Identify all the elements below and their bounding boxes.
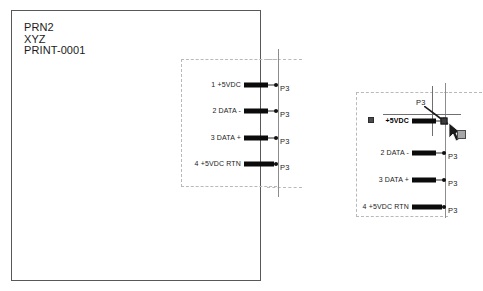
- title-line-1: PRN2: [24, 22, 86, 34]
- part-outline-stub-top: [267, 59, 302, 60]
- pin-label-selected: +5VDC: [385, 117, 409, 125]
- pin-label: 3 DATA +: [379, 176, 409, 184]
- pin-terminal-dot-icon[interactable]: [274, 136, 278, 140]
- pin-label: 2 DATA -: [380, 149, 409, 157]
- pin-label: 3 DATA +: [211, 134, 241, 142]
- pin-bar-icon: [244, 109, 268, 114]
- pin-bar-icon: [412, 178, 436, 183]
- title-block: PRN2 XYZ PRINT-0001: [24, 22, 86, 57]
- title-line-3: PRINT-0001: [24, 45, 86, 57]
- connector-label-active: P3: [415, 98, 427, 107]
- connector-label: P3: [448, 207, 458, 215]
- connector-label: P3: [280, 111, 290, 119]
- pin-bar-icon: [244, 136, 268, 141]
- connector-label: P3: [280, 164, 290, 172]
- pin-terminal-dot-icon[interactable]: [442, 205, 446, 209]
- connector-label: P3: [280, 138, 290, 146]
- pin-terminal-dot-icon[interactable]: [442, 178, 446, 182]
- pin-label: 4 +5VDC RTN: [363, 203, 409, 211]
- pin-terminal-dot-icon[interactable]: [274, 162, 278, 166]
- pin-label: 1 +5VDC: [211, 81, 241, 89]
- pin-bar-icon: [244, 162, 274, 167]
- pin-bar-icon: [244, 83, 268, 88]
- part-outline-stub-bottom: [267, 187, 302, 188]
- connector-label: P3: [448, 180, 458, 188]
- pin-terminal-dot-icon[interactable]: [274, 109, 278, 113]
- crosshair-vertical: [432, 86, 433, 136]
- pin-terminal-dot-icon[interactable]: [442, 151, 446, 155]
- pin-bar-icon: [412, 151, 436, 156]
- schematic-sheet[interactable]: PRN2 XYZ PRINT-0001 1 +5VDC P3 2 DATA - …: [11, 10, 261, 281]
- pin-label: 2 DATA -: [212, 107, 241, 115]
- pin-label: 4 +5VDC RTN: [195, 160, 241, 168]
- crosshair-horizontal: [383, 114, 461, 115]
- pin-bar-icon: [412, 205, 442, 210]
- pin-terminal-dot-icon[interactable]: [274, 83, 278, 87]
- connector-bus-line: [278, 49, 279, 197]
- selected-endpoint-handle[interactable]: [441, 118, 448, 125]
- detail-part-outline-stub-top: [444, 92, 482, 93]
- connector-label: P3: [280, 85, 290, 93]
- detail-zoom-panel[interactable]: P3 +5VDC 2 DATA - P3 3 DATA + P3: [352, 88, 482, 218]
- pin-bar-icon: [412, 119, 436, 124]
- drag-ghost-icon: [457, 130, 466, 139]
- drawing-canvas[interactable]: PRN2 XYZ PRINT-0001 1 +5VDC P3 2 DATA - …: [0, 0, 483, 291]
- connector-label: P3: [448, 153, 458, 161]
- selection-handle-icon[interactable]: [368, 117, 374, 123]
